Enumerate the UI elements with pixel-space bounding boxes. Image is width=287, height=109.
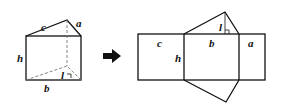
label-l: l	[61, 69, 65, 81]
net-label-c: c	[157, 37, 162, 49]
prism-net: c b a h l	[138, 12, 265, 102]
prism-top-triangle	[26, 20, 81, 36]
label-c: c	[41, 21, 46, 33]
net-label-h: h	[175, 52, 181, 64]
label-b: b	[44, 82, 50, 94]
net-bottom-triangle	[184, 80, 239, 102]
label-h: h	[17, 52, 23, 64]
diagram: c a h l b c b a h l	[0, 0, 287, 109]
net-label-l: l	[219, 21, 223, 33]
net-label-b: b	[209, 37, 215, 49]
right-arrow-icon	[103, 49, 121, 63]
label-a: a	[76, 17, 82, 29]
prism-front-face	[26, 36, 81, 80]
net-top-triangle	[184, 12, 239, 34]
prism: c a h l b	[17, 17, 82, 94]
net-label-a: a	[248, 37, 254, 49]
right-angle-mark	[67, 74, 71, 78]
prism-hidden-base	[26, 66, 81, 80]
